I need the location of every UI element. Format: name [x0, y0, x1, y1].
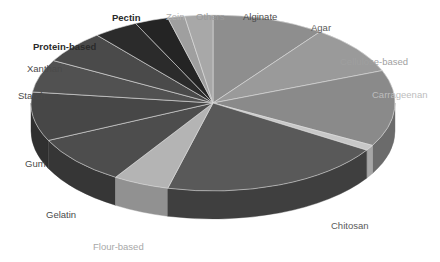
pie-label-protein-based: Protein-based [33, 42, 96, 52]
pie-slice-side-carrageenan [367, 145, 373, 178]
pie-chart: PectinZeinOthersAlginateAgarCellulose-ba… [0, 0, 440, 262]
pie-label-gelatin: Gelatin [46, 210, 76, 220]
pie-label-carrageenan: Carrageenan [372, 90, 427, 100]
pie-label-agar: Agar [311, 23, 331, 33]
pie-label-flour-based: Flour-based [93, 242, 144, 252]
pie-label-alginate: Alginate [243, 12, 277, 22]
pie-label-others: Others [196, 12, 225, 22]
pie-label-starch: Starch [18, 91, 45, 101]
pie-label-pectin: Pectin [112, 13, 141, 23]
pie-label-zein: Zein [166, 12, 184, 22]
pie-chart-svg [0, 0, 440, 262]
pie-label-gum: Gum [25, 159, 46, 169]
pie-label-chitosan: Chitosan [331, 221, 369, 231]
pie-label-cellulose-based: Cellulose-based [340, 57, 408, 67]
pie-label-xanthan: Xanthan [27, 64, 62, 74]
